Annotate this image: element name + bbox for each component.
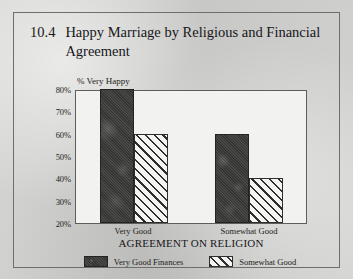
bar — [215, 134, 249, 223]
legend-label: Somewhat Good — [239, 257, 296, 267]
bar — [249, 178, 283, 223]
plot-area — [75, 90, 307, 224]
y-axis-tick: 30% — [56, 197, 71, 207]
legend-swatch — [84, 256, 108, 267]
figure-panel: 10.4 Happy Marriage by Religious and Fin… — [13, 12, 340, 268]
x-axis-tick: Somewhat Good — [191, 226, 307, 236]
y-axis-tick: 20% — [56, 219, 71, 229]
y-axis-tick: 50% — [56, 152, 71, 162]
legend-swatch — [209, 256, 233, 267]
figure-caption: Happy Marriage by Religious and Financia… — [65, 23, 323, 61]
y-axis-tick: 40% — [56, 174, 71, 184]
x-axis-tick-labels: Very GoodSomewhat Good — [75, 226, 307, 236]
legend-item: Very Good Finances — [84, 256, 183, 267]
figure-screenshot: 10.4 Happy Marriage by Religious and Fin… — [0, 0, 353, 279]
x-axis-tick: Very Good — [75, 226, 191, 236]
legend-item: Somewhat Good — [209, 256, 296, 267]
bar — [100, 89, 134, 223]
bar — [134, 134, 168, 223]
figure-title: 10.4 Happy Marriage by Religious and Fin… — [30, 23, 323, 61]
legend-label: Very Good Finances — [114, 257, 183, 267]
y-axis-tick-labels: 20%30%40%50%60%70%80% — [40, 90, 71, 224]
x-axis-title: AGREEMENT ON RELIGION — [75, 237, 307, 249]
bar-group — [76, 91, 191, 223]
bars-layer — [76, 91, 306, 223]
y-axis-tick: 80% — [56, 85, 71, 95]
chart-legend: Very Good FinancesSomewhat Good — [64, 256, 316, 267]
figure-number: 10.4 — [30, 23, 55, 42]
bar-group — [191, 91, 306, 223]
y-axis-title: % Very Happy — [77, 76, 130, 86]
y-axis-tick: 60% — [56, 130, 71, 140]
y-axis-tick: 70% — [56, 107, 71, 117]
